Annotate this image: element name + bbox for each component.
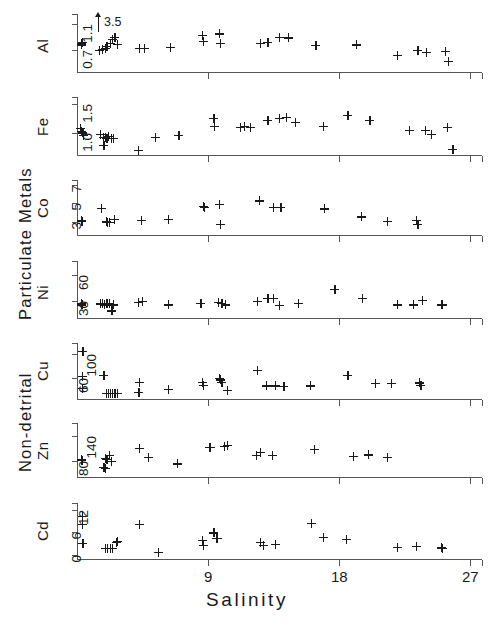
figure-scatter-matrix: 0.71.1Al1.01.5Fe357Co3060Ni60100Cu80140Z… bbox=[0, 0, 494, 632]
x-tick-Cd bbox=[470, 560, 471, 566]
x-tick-Cd bbox=[339, 560, 340, 566]
panel-Cd: 0612Cd91827Salinity bbox=[0, 0, 494, 632]
data-point bbox=[307, 519, 316, 528]
data-point bbox=[438, 544, 447, 553]
x-axis-title: Salinity bbox=[0, 589, 494, 611]
off-scale-arrow bbox=[98, 16, 99, 32]
data-point bbox=[154, 548, 163, 557]
group-label-particulate-metals: Particulate Metals bbox=[16, 167, 35, 320]
x-axis-endcap-Cd bbox=[482, 560, 483, 566]
data-point bbox=[113, 537, 122, 546]
x-axis-Cd bbox=[77, 559, 482, 560]
data-point bbox=[319, 533, 328, 542]
data-point bbox=[271, 540, 280, 549]
y-axis-label-Cd: Cd bbox=[34, 521, 51, 541]
off-scale-arrowhead bbox=[95, 12, 101, 17]
data-point bbox=[342, 535, 351, 544]
data-point bbox=[412, 542, 421, 551]
x-tick-label: 9 bbox=[188, 568, 228, 585]
data-point bbox=[393, 543, 402, 552]
data-point bbox=[135, 520, 144, 529]
data-point bbox=[213, 534, 222, 543]
off-scale-value-label: 3.5 bbox=[104, 15, 121, 29]
data-point bbox=[199, 541, 208, 550]
group-label-non-detrital: Non-detrital bbox=[16, 372, 35, 472]
x-tick-label: 18 bbox=[319, 568, 359, 585]
x-tick-label: 27 bbox=[450, 568, 490, 585]
data-point bbox=[78, 520, 87, 529]
data-point bbox=[259, 541, 268, 550]
x-tick-Cd bbox=[208, 560, 209, 566]
y-axis-cap-Cd bbox=[72, 503, 77, 504]
data-point bbox=[78, 539, 87, 548]
